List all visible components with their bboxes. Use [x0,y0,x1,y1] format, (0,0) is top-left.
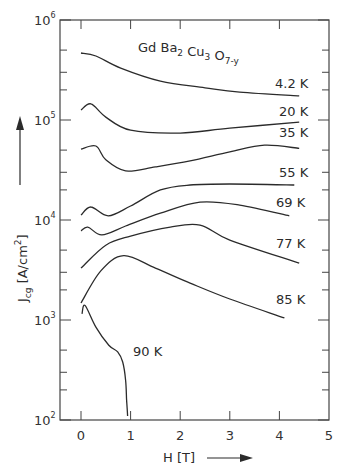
y-tick-label: 105 [34,111,56,128]
series-label-69-kk: 69 K [276,195,306,210]
series-label-55-kk: 55 K [279,165,309,180]
x-tick-label: 0 [77,428,85,443]
y-axis-arrow-icon [16,116,24,185]
y-tick-label: 102 [34,411,56,428]
series-label-85-kk: 85 K [276,292,306,307]
curve-90-kk [82,305,128,416]
x-axis-label: H [T] [163,450,195,465]
chart-title: Gd Ba2 Cu3 O7-y [138,40,239,66]
header-fragment: ve Materials. [0,0,67,1]
x-tick-label: 4 [275,428,283,443]
x-tick-label: 2 [176,428,184,443]
chart: ve Materials. 012345 102103104105106 4.2… [0,0,339,471]
y-tick-label: 106 [34,11,56,28]
series-label-90-kk: 90 K [133,344,163,359]
x-tick-labels: 012345 [77,428,333,443]
curve-35-kk [81,145,299,171]
curves [81,53,299,416]
series-label-77-kk: 77 K [276,236,306,251]
y-axis-label: Jcg [A/cm2] [13,234,33,303]
series-label-35-kk: 35 K [279,125,309,140]
x-tick-label: 1 [126,428,134,443]
y-tick-label: 103 [34,311,56,328]
curve-55-kk [81,184,294,216]
x-tick-label: 3 [226,428,234,443]
x-axis-arrow-icon [207,454,253,462]
curve-4-2-kk [81,53,299,96]
y-tick-label: 104 [34,211,56,228]
x-tick-label: 5 [325,428,333,443]
curve-85-kk [81,256,284,318]
series-label-4-2-kk: 4.2 K [275,76,309,91]
series-label-20-kk: 20 K [279,104,309,119]
curve-20-kk [81,104,299,133]
y-tick-labels: 102103104105106 [34,11,56,428]
curve-69-kk [81,202,289,235]
